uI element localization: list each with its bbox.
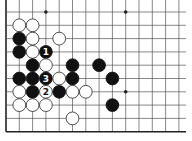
- white-stone: [53, 32, 66, 45]
- white-stone: [26, 99, 39, 112]
- white-stone: [26, 46, 39, 59]
- white-stone: [66, 112, 79, 125]
- white-stone-icon: [13, 19, 26, 32]
- white-stone-icon: [79, 85, 92, 98]
- white-stone: [40, 99, 53, 112]
- black-stone: [13, 72, 26, 85]
- white-stone-icon: [40, 59, 53, 72]
- white-stone-icon: [13, 85, 26, 98]
- black-stone: [13, 46, 26, 59]
- black-stone-icon: [26, 85, 39, 98]
- black-stone: [66, 72, 79, 85]
- white-stone: [66, 85, 79, 98]
- move-number-label: 2: [43, 87, 49, 97]
- move-number-label: 1: [43, 47, 49, 57]
- black-stone-move-1: 1: [40, 46, 53, 59]
- move-number-label: 3: [43, 74, 49, 84]
- black-stone: [13, 32, 26, 45]
- white-stone-icon: [40, 99, 53, 112]
- white-stone-icon: [13, 99, 26, 112]
- star-point-icon: [124, 90, 128, 94]
- black-stone: [26, 59, 39, 72]
- white-stone-icon: [26, 19, 39, 32]
- black-stone: [106, 99, 119, 112]
- black-stone-icon: [13, 46, 26, 59]
- black-stone-move-3: 3: [40, 72, 53, 85]
- white-stone: [40, 59, 53, 72]
- black-stone-icon: [26, 59, 39, 72]
- black-stone-icon: [66, 59, 79, 72]
- black-stone-icon: [106, 72, 119, 85]
- white-stone-icon: [66, 85, 79, 98]
- white-stone: [13, 19, 26, 32]
- black-stone: [26, 72, 39, 85]
- white-stone-icon: [53, 72, 66, 85]
- black-stone-icon: [26, 72, 39, 85]
- white-stone: [26, 19, 39, 32]
- white-stone: [13, 85, 26, 98]
- white-stone-icon: [26, 99, 39, 112]
- black-stone: [53, 85, 66, 98]
- white-stone-move-2: 2: [40, 85, 53, 98]
- black-stone: [66, 59, 79, 72]
- black-stone: [26, 85, 39, 98]
- black-stone-icon: [53, 85, 66, 98]
- black-stone-icon: [66, 72, 79, 85]
- star-point-icon: [124, 10, 128, 14]
- black-stone-icon: [13, 32, 26, 45]
- star-point-icon: [44, 10, 48, 14]
- black-stone-icon: [13, 72, 26, 85]
- white-stone: [26, 32, 39, 45]
- white-stone: [53, 72, 66, 85]
- go-board: 132: [0, 0, 192, 141]
- white-stone: [13, 99, 26, 112]
- black-stone-icon: [93, 59, 106, 72]
- white-stone-icon: [53, 32, 66, 45]
- black-stone: [106, 72, 119, 85]
- white-stone-icon: [66, 112, 79, 125]
- black-stone: [93, 59, 106, 72]
- white-stone: [79, 85, 92, 98]
- white-stone-icon: [26, 46, 39, 59]
- black-stone-icon: [106, 99, 119, 112]
- white-stone-icon: [26, 32, 39, 45]
